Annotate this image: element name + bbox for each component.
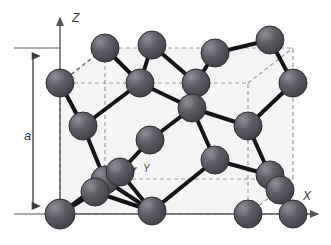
atom-sphere	[234, 200, 262, 228]
atom-sphere	[138, 31, 166, 59]
lattice-diagram: Z X Y a	[0, 0, 331, 245]
atom-sphere	[136, 126, 164, 154]
atom-sphere	[126, 69, 154, 97]
lattice-parameter-label: a	[24, 128, 31, 143]
crystal-structure-figure: Z X Y a	[0, 0, 331, 245]
atom-sphere	[178, 94, 206, 122]
atom-sphere	[279, 200, 307, 228]
atom-sphere	[279, 69, 307, 97]
atom-sphere	[182, 69, 210, 97]
atom-sphere	[81, 178, 109, 206]
atom-sphere	[256, 26, 284, 54]
atom-sphere	[266, 176, 294, 204]
atom-sphere	[234, 112, 262, 140]
atom-sphere	[45, 199, 75, 229]
atom-sphere	[106, 158, 134, 186]
z-axis-label: Z	[71, 11, 80, 25]
atom-sphere	[91, 34, 119, 62]
atom-sphere	[69, 112, 97, 140]
atom-sphere	[46, 69, 74, 97]
x-axis-label: X	[302, 189, 312, 203]
atom-sphere	[201, 39, 229, 67]
atom-sphere	[138, 197, 166, 225]
atom-sphere	[201, 146, 229, 174]
